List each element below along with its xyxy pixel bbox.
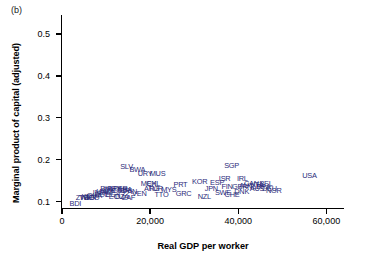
x-axis-line: [61, 208, 344, 209]
data-point-label: MUS: [150, 170, 166, 177]
x-tick-label: 0: [32, 216, 92, 226]
y-tick-label: 0.1: [6, 197, 50, 207]
data-point-label: NOR: [266, 187, 282, 194]
data-point-label: NZL: [198, 193, 211, 200]
scatter-plot-area: BDIZWETGOKENBGDGHABOLINDHNDJAMPHLIDNEGYP…: [62, 15, 344, 208]
y-axis-title: Marginal product of capital (adjusted): [11, 33, 21, 213]
x-axis-title: Real GDP per worker: [62, 241, 344, 251]
data-point-label: PRT: [173, 181, 187, 188]
data-point-label: USA: [302, 172, 316, 179]
data-point-label: GRC: [176, 190, 192, 197]
y-tick-label: 0.4: [6, 71, 50, 81]
y-tick-mark: [56, 117, 61, 118]
y-tick-mark: [56, 201, 61, 202]
x-tick-mark: [61, 209, 62, 214]
x-tick-label: 40,000: [208, 216, 268, 226]
x-tick-mark: [238, 209, 239, 214]
data-point-label: SGP: [224, 162, 239, 169]
y-tick-mark: [56, 159, 61, 160]
y-tick-label: 0.3: [6, 113, 50, 123]
x-tick-mark: [326, 209, 327, 214]
x-tick-label: 60,000: [296, 216, 356, 226]
y-tick-mark: [56, 33, 61, 34]
x-tick-label: 20,000: [120, 216, 180, 226]
y-tick-label: 0.5: [6, 29, 50, 39]
panel-label: (b): [11, 5, 22, 15]
y-tick-label: 0.2: [6, 155, 50, 165]
x-tick-mark: [149, 209, 150, 214]
y-tick-mark: [56, 75, 61, 76]
